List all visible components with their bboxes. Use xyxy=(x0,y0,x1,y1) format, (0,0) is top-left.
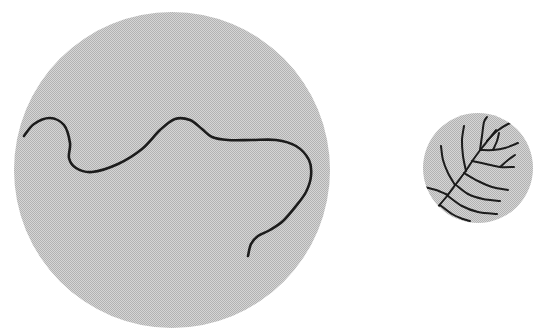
large-circle-fill xyxy=(14,12,330,328)
large-shaded-circle xyxy=(14,12,330,328)
figure-root: Two shaded circular fields containing in… xyxy=(0,0,534,336)
figure-canvas xyxy=(0,0,534,336)
small-shaded-circle xyxy=(423,113,533,223)
